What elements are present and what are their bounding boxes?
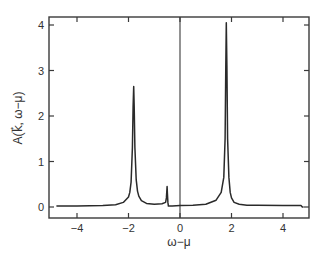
y-axis-ticks: 01234 (38, 19, 309, 213)
y-tick-label: 4 (38, 19, 44, 31)
x-tick-label: −2 (122, 222, 135, 234)
spectral-function-chart: −4−2024 01234 ω−μ A(k⃗, ω−μ) (0, 0, 324, 256)
axes-box (49, 17, 309, 218)
y-axis-label: A(k⃗, ω−μ) (10, 92, 25, 145)
x-tick-label: −4 (71, 222, 84, 234)
x-axis-ticks: −4−2024 (71, 17, 286, 234)
x-tick-label: 0 (177, 222, 183, 234)
y-tick-label: 0 (38, 201, 44, 213)
x-tick-label: 2 (228, 222, 234, 234)
plot-frame (49, 17, 309, 218)
x-axis-label: ω−μ (167, 235, 190, 249)
y-tick-label: 3 (38, 65, 44, 77)
y-tick-label: 2 (38, 110, 44, 122)
x-tick-label: 4 (280, 222, 286, 234)
y-tick-label: 1 (38, 156, 44, 168)
